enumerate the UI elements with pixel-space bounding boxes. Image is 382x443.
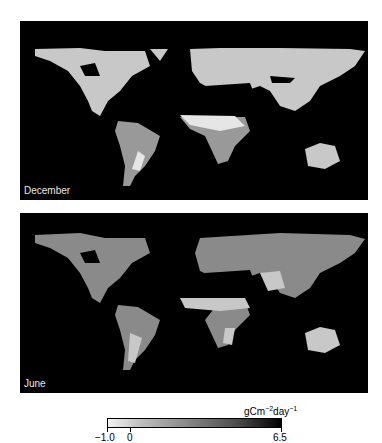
- world-map-december: [20, 21, 368, 200]
- map-panel-december: December: [20, 21, 368, 200]
- panel-label-june: June: [24, 378, 46, 389]
- colorbar: [107, 418, 282, 428]
- map-panel-june: June: [20, 213, 368, 393]
- panel-label-december: December: [24, 185, 70, 196]
- colorbar-tick-label: 0: [127, 432, 133, 443]
- colorbar-tick-label: 6.5: [273, 432, 287, 443]
- colorbar-tick-label: −1.0: [95, 432, 115, 443]
- world-map-june: [20, 213, 368, 393]
- colorbar-unit-label: gCm−2day−1: [244, 405, 297, 417]
